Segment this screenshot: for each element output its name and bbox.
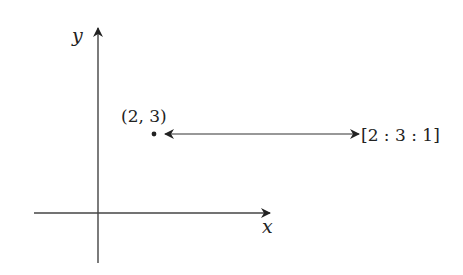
x-axis-label: x [262,215,273,237]
point-label: (2, 3) [121,106,167,126]
coordinate-diagram: x y (2, 3) [2 : 3 : 1] [0,0,463,275]
y-axis-label: y [71,24,83,46]
point-marker [152,132,157,137]
homogeneous-label: [2 : 3 : 1] [361,125,440,145]
